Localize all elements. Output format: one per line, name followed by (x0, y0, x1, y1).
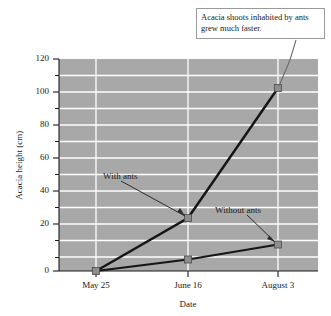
y-tick-label-100: 100 (23, 86, 49, 97)
y-axis-title: Acacia height (cm) (14, 120, 25, 210)
chart-canvas (0, 0, 331, 316)
y-tick-label-20: 20 (23, 218, 49, 229)
marker-without-ants-august3 (275, 241, 282, 248)
callout-line-1: Acacia shoots inhabited (201, 12, 282, 22)
x-tick-label-may-25: May 25 (61, 280, 131, 291)
x-ticks (96, 271, 278, 277)
y-tick-label-40: 40 (23, 185, 49, 196)
x-axis-title: Date (153, 299, 223, 310)
marker-with-ants-june16 (185, 215, 192, 222)
marker-without-ants-june16 (185, 256, 192, 263)
y-major-ticks (53, 59, 59, 271)
acacia-height-line-chart: 120 100 80 60 40 20 0 Acacia height (cm)… (0, 0, 331, 316)
y-tick-label-60: 60 (23, 152, 49, 163)
y-tick-label-80: 80 (23, 119, 49, 130)
marker-may25 (93, 268, 100, 275)
y-minor-ticks (55, 76, 59, 258)
x-tick-label-august-3: August 3 (243, 280, 313, 291)
marker-with-ants-august3 (275, 85, 282, 92)
x-tick-label-june-16: June 16 (153, 280, 223, 291)
y-tick-label-120: 120 (23, 53, 49, 64)
series-label-with-ants: With ants (103, 171, 137, 182)
y-tick-label-0: 0 (23, 265, 49, 276)
callout-text: Acacia shoots inhabited by ants grew muc… (201, 12, 323, 35)
series-label-without-ants: Without ants (215, 205, 261, 216)
